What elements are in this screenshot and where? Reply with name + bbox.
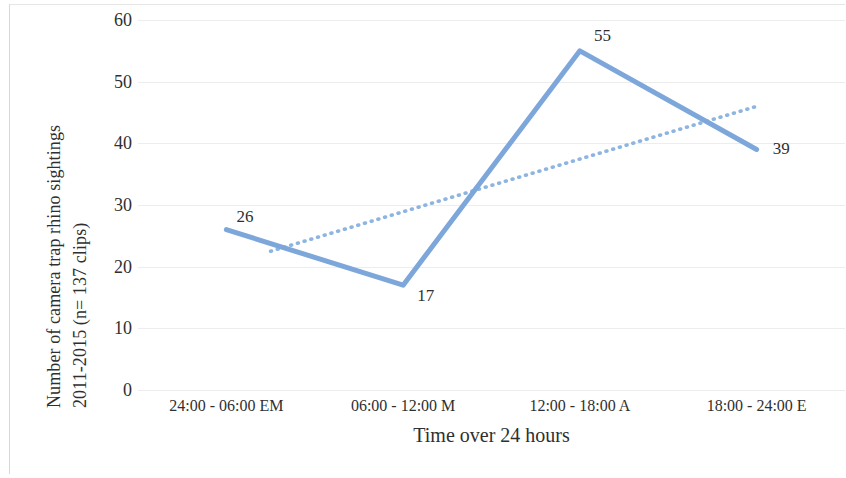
gridline — [138, 390, 845, 391]
chart-figure: Number of camera trap rhino sightings 20… — [0, 0, 846, 478]
y-axis-tick-labels: 6050403020100 — [84, 20, 132, 390]
data-line — [226, 51, 756, 285]
data-point-label: 39 — [773, 140, 790, 157]
data-point-label: 26 — [236, 208, 253, 225]
y-axis-tick-label: 0 — [88, 381, 132, 399]
data-point-label: 55 — [594, 27, 611, 44]
y-axis-tick-label: 20 — [88, 258, 132, 276]
x-axis-tick-labels: 24:00 - 06:00 EM06:00 - 12:00 M12:00 - 1… — [138, 396, 845, 420]
plot-area: 26175539 — [138, 20, 845, 390]
series-canvas — [138, 20, 845, 390]
y-axis-tick-label: 60 — [88, 11, 132, 29]
y-axis-tick-label: 40 — [88, 134, 132, 152]
x-axis-tick-label: 06:00 - 12:00 M — [315, 396, 492, 415]
data-point-label: 17 — [417, 287, 434, 304]
y-axis-tick-label: 50 — [88, 73, 132, 91]
x-axis-tick-label: 12:00 - 18:00 A — [492, 396, 669, 415]
trendline-dotted — [271, 106, 757, 251]
x-axis-tick-label: 24:00 - 06:00 EM — [138, 396, 315, 415]
x-axis-title: Time over 24 hours — [138, 424, 845, 447]
y-axis-tick-label: 10 — [88, 319, 132, 337]
x-axis-tick-label: 18:00 - 24:00 E — [668, 396, 845, 415]
y-axis-title-line-1: Number of camera trap rhino sightings — [44, 125, 65, 408]
y-axis-tick-label: 30 — [88, 196, 132, 214]
